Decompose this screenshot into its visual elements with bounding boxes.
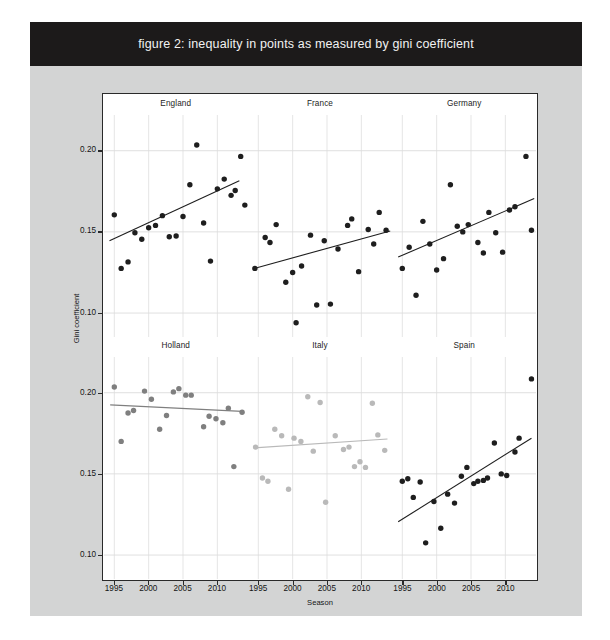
data-point <box>523 153 528 158</box>
panel-holland <box>104 357 248 579</box>
data-point <box>512 449 517 454</box>
data-point <box>308 232 313 237</box>
data-point <box>485 475 490 480</box>
panel-title-england: England <box>104 99 248 108</box>
data-point <box>290 269 295 274</box>
data-point <box>283 279 288 284</box>
data-point <box>357 459 362 464</box>
data-point <box>111 212 116 217</box>
data-point <box>157 427 162 432</box>
data-point <box>376 209 381 214</box>
data-point <box>130 408 135 413</box>
data-point <box>529 376 534 381</box>
data-point <box>517 435 522 440</box>
data-point <box>459 474 464 479</box>
data-point <box>242 202 247 207</box>
data-point <box>418 479 423 484</box>
x-tick-mark <box>217 581 218 585</box>
figure-canvas: EnglandFranceGermanyHollandItalySpain 0.… <box>30 66 582 616</box>
y-tick-mark <box>98 150 102 151</box>
data-point <box>152 222 157 227</box>
y-axis-label: Gini coefficient <box>72 259 81 379</box>
data-point <box>125 259 130 264</box>
data-point <box>201 424 206 429</box>
data-point <box>163 413 168 418</box>
data-point <box>346 444 351 449</box>
data-point <box>356 269 361 274</box>
data-point <box>405 476 410 481</box>
x-tick-label: 2010 <box>343 584 379 593</box>
data-point <box>299 263 304 268</box>
data-point <box>273 221 278 226</box>
data-point <box>279 433 284 438</box>
data-point <box>176 386 181 391</box>
x-tick-mark <box>505 581 506 585</box>
y-tick-mark <box>98 474 102 475</box>
data-point <box>493 230 498 235</box>
x-tick-mark <box>361 581 362 585</box>
data-point <box>455 223 460 228</box>
data-point <box>363 465 368 470</box>
data-point <box>125 410 130 415</box>
trend-line <box>254 439 387 448</box>
data-point <box>293 320 298 325</box>
data-point <box>314 302 319 307</box>
x-tick-mark <box>327 581 328 585</box>
x-tick-label: 1995 <box>96 584 132 593</box>
data-point <box>220 420 225 425</box>
x-tick-mark <box>114 581 115 585</box>
data-point <box>298 439 303 444</box>
data-point <box>499 471 504 476</box>
data-point <box>466 221 471 226</box>
data-point <box>252 265 257 270</box>
panel-spain <box>392 357 536 579</box>
x-tick-mark <box>148 581 149 585</box>
data-point <box>438 526 443 531</box>
panel-title-spain: Spain <box>392 341 536 350</box>
x-tick-mark <box>437 581 438 585</box>
y-tick-label: 0.20 <box>60 388 96 397</box>
figure-title-banner: figure 2: inequality in points as measur… <box>30 22 582 66</box>
data-point <box>486 209 491 214</box>
y-tick-mark <box>98 555 102 556</box>
data-point <box>225 405 230 410</box>
x-tick-label: 2000 <box>419 584 455 593</box>
data-point <box>206 414 211 419</box>
y-tick-label: 0.20 <box>60 145 96 154</box>
trend-line <box>254 231 390 268</box>
data-point <box>232 187 237 192</box>
trend-line <box>110 405 242 411</box>
data-point <box>201 220 206 225</box>
data-point <box>317 400 322 405</box>
data-point <box>448 182 453 187</box>
data-point <box>214 186 219 191</box>
panel-england <box>104 115 248 337</box>
data-point <box>310 448 315 453</box>
data-point <box>452 500 457 505</box>
data-point <box>260 475 265 480</box>
panel-germany <box>392 115 536 337</box>
data-point <box>148 397 153 402</box>
data-point <box>267 239 272 244</box>
y-tick-mark <box>98 393 102 394</box>
y-tick-mark <box>98 231 102 232</box>
panel-title-italy: Italy <box>248 341 392 350</box>
x-tick-label: 2005 <box>453 584 489 593</box>
data-point <box>492 440 497 445</box>
data-point <box>221 176 226 181</box>
data-point <box>132 230 137 235</box>
x-tick-label: 2010 <box>199 584 235 593</box>
data-point <box>481 250 486 255</box>
panel-italy <box>248 357 392 579</box>
panel-title-holland: Holland <box>104 341 248 350</box>
data-point <box>407 244 412 249</box>
data-point <box>272 427 277 432</box>
y-tick-label: 0.15 <box>60 226 96 235</box>
data-point <box>382 448 387 453</box>
data-point <box>341 447 346 452</box>
data-point <box>512 204 517 209</box>
data-point <box>500 249 505 254</box>
data-point <box>411 495 416 500</box>
data-point <box>352 464 357 469</box>
data-point <box>427 241 432 246</box>
